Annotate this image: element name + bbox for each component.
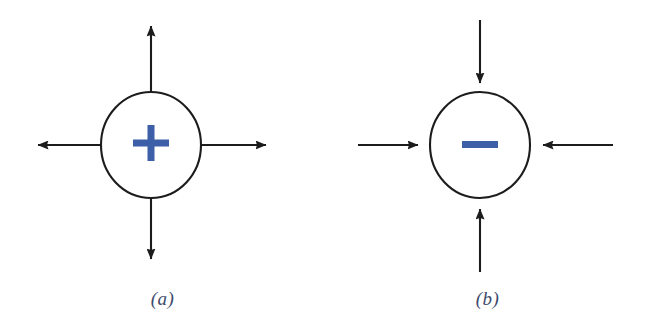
positive-charge-field-diagram [0, 0, 325, 330]
figure-root: (a) (b) [0, 0, 650, 330]
panel-caption-b: (b) [325, 288, 650, 310]
minus-sign-icon [462, 141, 498, 148]
diagram-panel-b: (b) [325, 0, 650, 330]
diagram-panel-a: (a) [0, 0, 325, 330]
panel-caption-a: (a) [0, 288, 325, 310]
negative-charge-field-diagram [325, 0, 650, 330]
